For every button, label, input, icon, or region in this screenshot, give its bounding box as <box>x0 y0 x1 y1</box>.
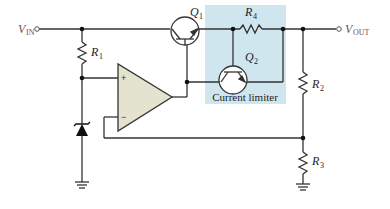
r2-resistor <box>299 72 307 94</box>
vin-label: V IN <box>18 22 35 37</box>
r3-label: R 3 <box>311 154 324 170</box>
svg-text:Q: Q <box>245 50 254 64</box>
svg-text:OUT: OUT <box>353 28 370 37</box>
svg-text:R: R <box>90 45 99 59</box>
q1-transistor <box>171 17 199 45</box>
svg-text:Q: Q <box>190 5 199 19</box>
svg-text:1: 1 <box>99 52 103 61</box>
opamp-minus-sign: − <box>121 112 126 122</box>
opamp-plus-sign: + <box>121 73 126 83</box>
vout-label: V OUT <box>345 22 370 37</box>
ground-icon <box>296 184 310 190</box>
svg-text:R: R <box>244 5 253 19</box>
ground-icon <box>75 182 89 188</box>
circuit-diagram: Current limiter <box>0 0 390 209</box>
svg-text:R: R <box>311 77 320 91</box>
current-limiter-label: Current limiter <box>212 91 278 103</box>
svg-text:IN: IN <box>26 28 35 37</box>
r2-label: R 2 <box>311 77 324 93</box>
r3-resistor <box>299 152 307 174</box>
svg-text:1: 1 <box>199 12 203 21</box>
svg-text:4: 4 <box>253 12 257 21</box>
q1-label: Q 1 <box>190 5 203 21</box>
q2-transistor <box>219 66 247 94</box>
svg-text:2: 2 <box>254 57 258 66</box>
zener-diode <box>74 122 90 136</box>
svg-text:3: 3 <box>320 161 324 170</box>
svg-text:2: 2 <box>320 84 324 93</box>
vout-terminal <box>337 27 342 32</box>
r1-resistor <box>78 42 86 64</box>
svg-text:R: R <box>311 154 320 168</box>
vin-terminal <box>35 27 40 32</box>
r1-label: R 1 <box>90 45 103 61</box>
